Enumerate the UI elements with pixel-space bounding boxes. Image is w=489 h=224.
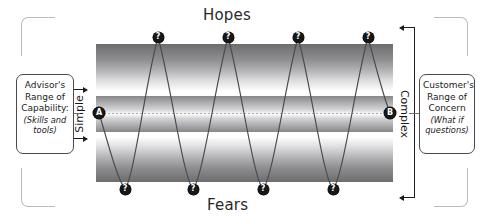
complex-arrow-top: [400, 27, 414, 28]
wave-node-peak-4[interactable]: ?: [363, 32, 374, 43]
simple-arrow-top: [73, 89, 87, 90]
advisor-line-1: Advisor's: [20, 80, 70, 92]
wave-node-trough-2[interactable]: ?: [188, 184, 199, 195]
hopes-label: Hopes: [203, 6, 251, 24]
start-marker-a[interactable]: A: [93, 107, 105, 119]
customer-note: (What if questions): [423, 115, 471, 136]
advisor-note: (Skills and tools): [20, 115, 70, 136]
wave-node-trough-3[interactable]: ?: [258, 184, 269, 195]
diagram-canvas: ? ? ? ? ? ? ? ? A B Hopes Fears Simple C…: [0, 0, 489, 224]
complex-axis-label: Complex: [398, 90, 411, 138]
right-connector-stub: [409, 113, 419, 114]
customer-range-box: Customer's Range of Concern (What if que…: [419, 74, 475, 154]
advisor-line-3: Capability:: [20, 103, 70, 115]
end-marker-b[interactable]: B: [384, 107, 396, 119]
simple-axis-label: Simple: [73, 95, 86, 133]
wave-node-peak-2[interactable]: ?: [223, 32, 234, 43]
wave-node-peak-3[interactable]: ?: [293, 32, 304, 43]
complex-arrow-bottom: [400, 197, 414, 198]
advisor-line-2: Range of: [20, 92, 70, 104]
wave-node-trough-4[interactable]: ?: [328, 184, 339, 195]
advisor-range-box: Advisor's Range of Capability: (Skills a…: [16, 74, 74, 154]
customer-line-3: Concern: [423, 103, 471, 115]
left-connector-stub: [74, 113, 80, 114]
fears-label: Fears: [207, 196, 248, 214]
wave-node-trough-1[interactable]: ?: [120, 184, 131, 195]
customer-line-1: Customer's: [423, 80, 471, 92]
wave-node-peak-1[interactable]: ?: [153, 32, 164, 43]
simple-arrow-bottom: [73, 138, 87, 139]
customer-line-2: Range of: [423, 92, 471, 104]
